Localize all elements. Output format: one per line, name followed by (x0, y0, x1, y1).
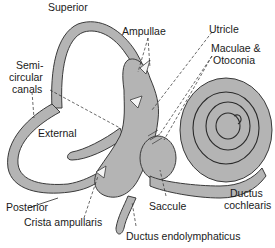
leader-endolymph (132, 202, 136, 226)
label-semicircular-line2: circular (9, 72, 43, 83)
label-external: External (38, 128, 77, 139)
label-saccule: Saccule (149, 201, 186, 212)
label-semicircular-line3: canals (12, 84, 42, 95)
label-maculae-line1: Maculae & (211, 43, 261, 54)
label-ductus-cochlearis-line2: cochlearis (224, 200, 271, 211)
label-semicircular-line1: Semi- (16, 60, 43, 71)
label-superior: Superior (48, 2, 88, 13)
saccule (140, 136, 176, 180)
label-utricle: Utricle (209, 24, 239, 35)
label-crista-ampullaris: Crista ampullaris (24, 217, 102, 228)
label-maculae-line2: Otoconia (213, 55, 255, 66)
label-posterior: Posterior (6, 202, 48, 213)
label-ampullae: Ampullae (122, 26, 166, 37)
leader-semicircular-2 (50, 90, 120, 128)
label-ductus-cochlearis-line1: Ductus (230, 188, 263, 199)
ductus-endolymphaticus-duct (116, 196, 136, 234)
label-ductus-endolymphaticus: Ductus endolymphaticus (126, 231, 240, 242)
cochlea-outer (180, 78, 272, 182)
inner-ear-diagram: Superior Ampullae Utricle Maculae & Otoc… (0, 0, 275, 248)
leader-semicircular-1 (32, 92, 34, 118)
